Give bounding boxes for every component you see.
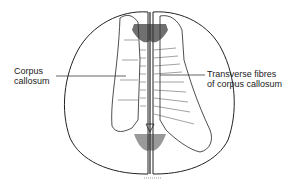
label-transverse-fibres: Transverse fibres of corpus callosum <box>207 69 282 89</box>
anatomy-diagram: Corpus callosum Transverse fibres of cor… <box>0 0 301 186</box>
left-hemisphere-outline <box>64 12 148 174</box>
brain-illustration <box>0 0 301 186</box>
label-corpus-callosum: Corpus callosum <box>14 66 50 86</box>
